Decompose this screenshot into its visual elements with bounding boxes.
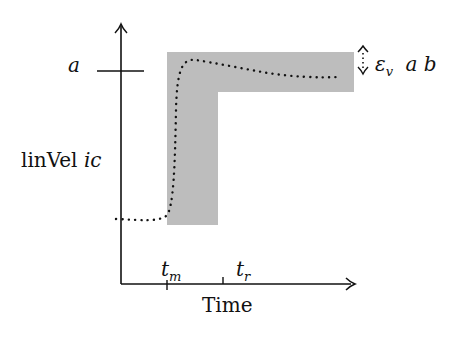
tr-symbol: t xyxy=(236,257,244,281)
x-axis-label: Time xyxy=(202,293,253,317)
level-a-label: a xyxy=(68,53,80,77)
tm-subscript: m xyxy=(169,269,181,284)
tr-label: tr xyxy=(236,257,250,281)
epsilon-arrow-up xyxy=(358,46,368,52)
y-axis-label: linVel ic xyxy=(21,148,101,172)
tolerance-band xyxy=(167,52,354,225)
epsilon-subscript: v xyxy=(386,64,393,79)
epsilon-arrow-down xyxy=(358,67,368,74)
tr-subscript: r xyxy=(244,269,250,284)
epsilon-symbol: ε xyxy=(375,52,386,76)
tm-symbol: t xyxy=(161,257,169,281)
tm-label: tm xyxy=(161,257,181,281)
y-axis-label-main: linVel xyxy=(21,148,78,172)
epsilon-label: εv a b xyxy=(375,52,437,76)
y-axis-label-suffix: ic xyxy=(84,148,102,172)
epsilon-args: a b xyxy=(405,52,436,76)
